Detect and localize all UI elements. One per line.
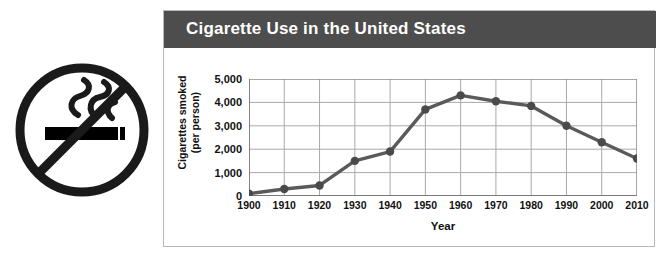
x-axis-tick-label: 1930 <box>343 199 366 211</box>
x-axis-tick-label: 1950 <box>414 199 437 211</box>
x-axis-tick-label: 1910 <box>273 199 296 211</box>
line-chart-svg <box>249 79 637 196</box>
x-axis-title: Year <box>249 220 637 232</box>
data-series-line <box>249 95 637 193</box>
no-smoking-icon-svg <box>8 52 156 204</box>
data-point-marker <box>280 185 288 193</box>
chart-body: Cigarettes smoked (per person) 01,0002,0… <box>164 48 656 248</box>
x-axis-tick-label: 1990 <box>555 199 578 211</box>
y-axis-tick-label: 1,000 <box>198 167 242 179</box>
y-axis-tick-label: 4,000 <box>198 96 242 108</box>
y-axis-tick-label: 0 <box>198 190 242 202</box>
chart-title: Cigarette Use in the United States <box>186 19 466 39</box>
data-point-marker <box>527 102 535 110</box>
y-axis-tick-labels: 01,0002,0003,0004,0005,000 <box>194 48 242 248</box>
data-point-marker <box>562 122 570 130</box>
data-point-marker <box>386 147 394 155</box>
plot-area <box>249 79 637 196</box>
cigarette-filter-icon <box>109 127 118 140</box>
data-point-marker <box>315 181 323 189</box>
data-point-marker <box>249 189 253 196</box>
data-point-marker <box>421 105 429 113</box>
x-axis-tick-label: 1980 <box>519 199 542 211</box>
x-axis-tick-label: 1900 <box>237 199 260 211</box>
chart-panel: Cigarette Use in the United States Cigar… <box>163 10 655 247</box>
chart-header-band: Cigarette Use in the United States <box>164 11 656 48</box>
y-axis-title-line1: Cigarettes smoked <box>176 63 189 183</box>
x-axis-tick-label: 2000 <box>590 199 613 211</box>
data-point-marker <box>598 138 606 146</box>
cigarette-tip-icon <box>120 127 125 140</box>
y-axis-tick-label: 2,000 <box>198 143 242 155</box>
no-smoking-icon <box>8 52 156 204</box>
y-axis-tick-label: 3,000 <box>198 120 242 132</box>
x-axis-tick-label: 1960 <box>449 199 472 211</box>
data-point-marker <box>456 91 464 99</box>
grid-lines <box>249 79 637 196</box>
x-axis-tick-labels: 1900191019201930194019501960197019801990… <box>249 199 637 217</box>
x-axis-tick-label: 1920 <box>308 199 331 211</box>
y-axis-tick-label: 5,000 <box>198 73 242 85</box>
x-axis-tick-label: 1940 <box>378 199 401 211</box>
x-axis-tick-label: 1970 <box>484 199 507 211</box>
data-point-marker <box>351 157 359 165</box>
data-point-markers <box>249 91 637 196</box>
axis-lines <box>249 79 637 196</box>
x-axis-tick-label: 2010 <box>625 199 648 211</box>
data-point-marker <box>492 97 500 105</box>
